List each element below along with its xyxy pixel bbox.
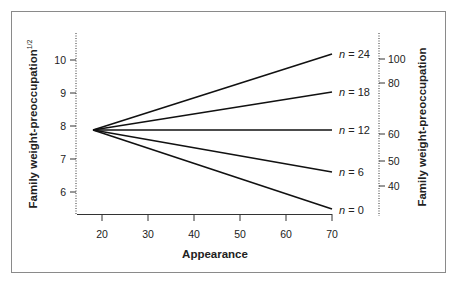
x-tick-label: 50 xyxy=(234,228,246,240)
y-tick-label: 7 xyxy=(60,153,66,165)
y-ticks-left: 10 9 8 7 6 xyxy=(54,54,76,198)
n-label-6: n = 6 xyxy=(339,166,364,178)
chart-svg: 10 9 8 7 6 20 30 40 50 60 70 Appearance … xyxy=(0,0,455,282)
x-tick-label: 60 xyxy=(280,228,292,240)
n-label-24: n = 24 xyxy=(339,48,370,60)
y-right-tick-label: 40 xyxy=(388,180,400,192)
n-label-18: n = 18 xyxy=(339,86,370,98)
y-right-tick-label: 80 xyxy=(388,77,400,89)
y-axis-title-left: Family weight-preoccupation1/2 xyxy=(26,39,39,208)
x-tick-label: 20 xyxy=(96,228,108,240)
n-labels: n = 24 n = 18 n = 12 n = 6 n = 0 xyxy=(339,48,370,216)
x-tick-label: 70 xyxy=(326,228,338,240)
y-tick-label: 6 xyxy=(60,186,66,198)
n-label-12: n = 12 xyxy=(339,124,370,136)
y-axis-title-text: Family weight-preoccupation xyxy=(27,49,39,208)
x-tick-label: 40 xyxy=(188,228,200,240)
line-n-6 xyxy=(93,130,332,172)
y-axis-title-superscript: 1/2 xyxy=(26,39,33,49)
n-label-0: n = 0 xyxy=(339,204,364,216)
y-right-tick-label: 50 xyxy=(388,155,400,167)
line-n-18 xyxy=(93,92,332,130)
y-tick-label: 9 xyxy=(60,87,66,99)
y-tick-label: 10 xyxy=(54,54,66,66)
x-axis-title: Appearance xyxy=(182,248,248,260)
y-right-tick-label: 60 xyxy=(388,128,400,140)
x-tick-label: 30 xyxy=(142,228,154,240)
x-ticks: 20 30 40 50 60 70 xyxy=(96,214,338,240)
y-axis-title-right: Family weight-preoccupation xyxy=(416,47,428,206)
line-n-0 xyxy=(93,130,332,209)
y-ticks-right: 100 80 60 50 40 xyxy=(379,53,406,192)
y-tick-label: 8 xyxy=(60,120,66,132)
line-n-24 xyxy=(93,54,332,130)
data-lines xyxy=(93,54,332,209)
y-right-tick-label: 100 xyxy=(388,53,406,65)
